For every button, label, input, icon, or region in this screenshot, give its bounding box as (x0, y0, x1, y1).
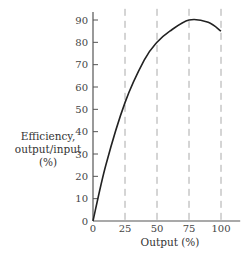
x-tick-label: 0 (90, 223, 96, 234)
x-axis-label: Output (%) (120, 236, 220, 248)
y-tick-label: 80 (75, 37, 88, 48)
x-tick-label: 75 (183, 223, 196, 234)
x-tick-label: 100 (211, 223, 230, 234)
y-tick-label: 70 (75, 59, 88, 70)
y-axis-label: Efficiency, output/input (%) (4, 130, 92, 169)
x-tick-label: 50 (151, 223, 164, 234)
y-tick-label: 90 (75, 15, 88, 26)
y-tick-label: 0 (82, 216, 88, 227)
y-axis-label-line: output/input (4, 143, 92, 156)
y-tick-label: 60 (75, 82, 88, 93)
y-tick-label: 10 (75, 193, 88, 204)
efficiency-chart: 01020304050607080900255075100 (0, 0, 252, 255)
y-axis-label-line: (%) (4, 156, 92, 169)
y-axis-label-line: Efficiency, (4, 130, 92, 143)
x-tick-label: 25 (119, 223, 132, 234)
y-tick-label: 50 (75, 104, 88, 115)
y-tick-label: 20 (75, 171, 88, 182)
